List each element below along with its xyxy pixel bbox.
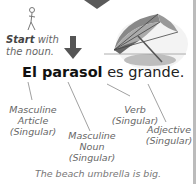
right-border (193, 0, 196, 184)
label-noun: MasculineNoun(Singular) (62, 130, 122, 163)
label-article: MasculineArticle(Singular) (4, 104, 62, 137)
label-verb: Verb(Singular) (110, 104, 160, 126)
label-adjective: Adjective(Singular) (142, 124, 196, 146)
translation-caption: The beach umbrella is big. (0, 168, 196, 179)
